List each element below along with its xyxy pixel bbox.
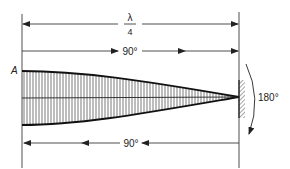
diagram-canvas: λ 4 90° A 180° 90° <box>0 0 290 169</box>
envelope-top-curve <box>22 71 239 97</box>
reflection-phase-arc: 180° <box>246 64 279 134</box>
forward-phase-label: 90° <box>122 46 137 57</box>
wavelength-denominator: 4 <box>127 27 132 37</box>
wavelength-dimension: λ 4 <box>23 12 238 37</box>
wavelength-numerator: λ <box>128 12 133 23</box>
return-phase-label: 90° <box>123 138 138 149</box>
standing-wave-envelope <box>22 60 239 140</box>
center-axis-line <box>22 97 239 98</box>
return-phase-arrow: 90° <box>24 138 239 149</box>
point-a-label: A <box>10 65 18 76</box>
reflecting-wall <box>239 80 245 118</box>
envelope-bottom-curve <box>22 97 239 125</box>
forward-phase-arrow: 90° <box>22 46 238 57</box>
reflection-phase-label: 180° <box>258 92 279 103</box>
